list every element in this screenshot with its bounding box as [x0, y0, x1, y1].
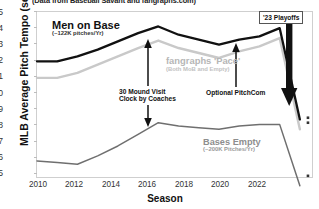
- annotation-mound-visit-line1: 30 Mound Visit: [119, 88, 165, 95]
- mound-visit-arrow: [144, 39, 152, 86]
- annotation-mound-visit: 30 Mound Visit Clock by Coaches: [119, 88, 176, 103]
- annotation-mound-visit-line2: Clock by Coaches: [119, 95, 176, 102]
- annotation-bases-empty-sub: (~200K Pitches/Yr): [203, 146, 255, 153]
- series-bases-empty: [37, 123, 300, 186]
- mound-visit-arrow-down: [144, 105, 152, 127]
- playoff-marker: [307, 116, 310, 119]
- annotation-fangraphs-pace: fangraphs 'Pace': [166, 56, 240, 67]
- playoff-marker-group: [307, 116, 310, 177]
- annotation-men-on-base-sub: (~122K pitches/Yr): [52, 30, 104, 37]
- series-fangraphs-pace: [37, 38, 300, 129]
- chart-root: (Data from Baseball Savant and fangraphs…: [0, 0, 319, 209]
- chart-svg: [0, 0, 319, 209]
- annotation-pitchcom: Optional PitchCom: [206, 89, 265, 96]
- playoff-marker: [307, 121, 310, 124]
- annotation-playoffs-box: '23 Playoffs: [259, 11, 303, 24]
- playoff-marker: [307, 175, 310, 178]
- annotation-fangraphs-pace-sub: (Both MoB and Empty): [166, 66, 229, 73]
